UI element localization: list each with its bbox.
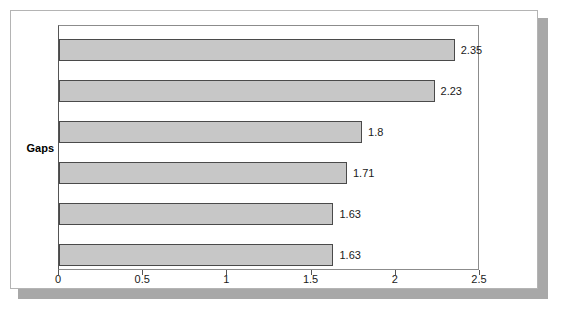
plot-area: 2.352.231.81.711.631.63 [58, 25, 479, 270]
bar[interactable] [59, 244, 333, 266]
x-axis-tick-label: 2.5 [471, 274, 486, 285]
x-axis-tick-label: 1 [223, 274, 229, 285]
bar-value-label: 1.63 [339, 249, 360, 260]
bar[interactable] [59, 121, 362, 143]
bar-value-label: 1.71 [353, 167, 374, 178]
bar-value-label: 1.8 [368, 127, 383, 138]
x-axis-tick-label: 2 [392, 274, 398, 285]
bar-row: 2.23 [59, 80, 480, 102]
category-axis: Gaps [8, 25, 54, 270]
bar-chart: Gaps 2.352.231.81.711.631.63 00.511.522.… [0, 0, 568, 317]
bar-value-label: 2.23 [441, 86, 462, 97]
bar[interactable] [59, 203, 333, 225]
bar[interactable] [59, 80, 435, 102]
bar-row: 1.63 [59, 244, 480, 266]
bar-row: 1.63 [59, 203, 480, 225]
bar-row: 2.35 [59, 39, 480, 61]
bar-row: 1.8 [59, 121, 480, 143]
bar-row: 1.71 [59, 162, 480, 184]
category-axis-label: Gaps [26, 142, 54, 154]
bar[interactable] [59, 162, 347, 184]
bar-value-label: 1.63 [339, 208, 360, 219]
x-axis-tick-label: 0.5 [135, 274, 150, 285]
bar[interactable] [59, 39, 455, 61]
x-axis-tick-label: 1.5 [303, 274, 318, 285]
bar-value-label: 2.35 [461, 45, 482, 56]
x-axis-tick-label: 0 [55, 274, 61, 285]
